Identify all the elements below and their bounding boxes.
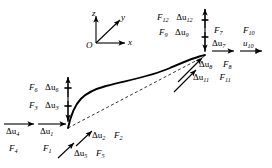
figure-canvas: O x y z F12 Δu12 F9 Δu9 F7 F10 Δu7 u10 Δ… [0, 0, 272, 168]
label-du3: Δu3 [45, 100, 58, 110]
label-f9: F9 [159, 27, 168, 37]
axis-x-label: x [128, 38, 132, 47]
right-node-vertical-arrows [202, 9, 209, 52]
right-node-horizontal-arrows [212, 48, 262, 53]
label-du12: Δu12 [176, 12, 192, 22]
label-du5-f5: Δu5 F5 [74, 149, 104, 158]
label-f4: F4 [9, 144, 18, 153]
label-f3: F3 [29, 100, 38, 110]
label-du5: Δu5 [74, 148, 87, 158]
axis-origin-label: O [86, 41, 93, 50]
label-f2: F2 [114, 130, 123, 140]
label-du9: Δu9 [175, 27, 188, 37]
label-f6-du6: F6 Δu6 [29, 83, 58, 92]
label-du2: Δu2 [92, 130, 105, 140]
label-f11: F11 [220, 72, 231, 82]
label-f1: F1 [43, 144, 52, 153]
axis-z-label: z [92, 9, 96, 18]
label-du2-f2: Δu2 F2 [92, 131, 122, 140]
label-du11: Δu11 [193, 72, 209, 82]
left-node-vertical-arrows [64, 77, 71, 122]
label-du6: Δu6 [45, 82, 58, 92]
axis-y-label: y [121, 13, 125, 22]
label-du4: Δu4 [6, 127, 19, 136]
label-du8: Δu8 [199, 59, 212, 69]
label-f8: F8 [223, 59, 232, 69]
label-u10: u10 [243, 39, 254, 48]
label-f6: F6 [29, 82, 38, 92]
label-f12: F12 [157, 12, 169, 22]
label-du1: Δu1 [40, 127, 53, 136]
label-du8-f8: Δu8 F8 [199, 60, 231, 69]
label-f12-du12: F12 Δu12 [157, 13, 193, 22]
label-f7: F7 [214, 26, 223, 35]
label-f9-du9: F9 Δu9 [159, 28, 188, 37]
label-f10: F10 [243, 26, 255, 35]
label-f5: F5 [96, 148, 105, 158]
label-f3-du3: F3 Δu3 [29, 101, 58, 110]
label-du7: Δu7 [212, 39, 225, 48]
label-du11-f11: Δu11 F11 [193, 73, 231, 82]
